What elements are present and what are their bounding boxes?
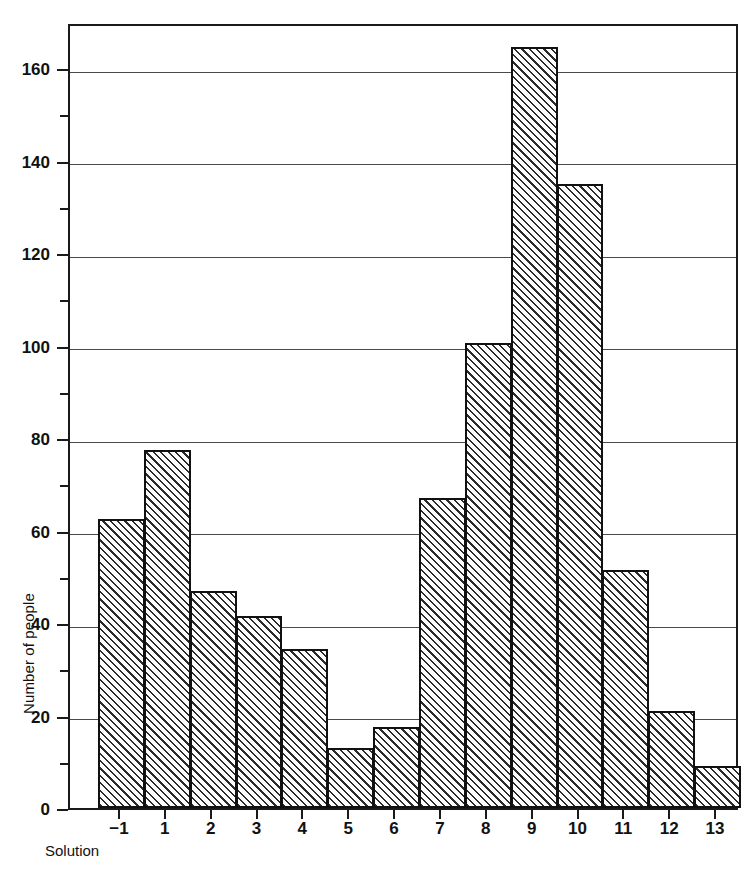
bar [144,450,191,808]
y-axis-tick-major [57,69,68,71]
y-axis-tick-major [57,254,68,256]
y-axis-tick-label: 140 [0,154,50,171]
y-axis-tick-major [57,717,68,719]
bar [236,616,283,808]
bar [511,47,558,808]
x-axis-tick-label: 7 [417,820,463,839]
x-axis-tick-label: −1 [96,820,142,839]
bar [648,711,695,808]
bar [465,343,512,808]
bar [373,727,420,808]
y-axis-tick-major [57,624,68,626]
y-axis-tick-label: 80 [0,431,50,448]
plot-area [68,24,738,810]
y-axis-tick-minor [60,300,68,302]
bar [419,498,466,808]
y-axis-tick-minor [60,485,68,487]
y-axis-tick-minor [60,393,68,395]
x-axis-tick [347,810,349,819]
y-axis-tick-major [57,532,68,534]
x-axis-tick-label: 4 [279,820,325,839]
bar [694,766,741,808]
x-axis-tick-label: 3 [234,820,280,839]
y-axis-tick-major [57,162,68,164]
x-axis-tick [256,810,258,819]
x-axis-tick-label: 11 [600,820,646,839]
x-axis-tick [164,810,166,819]
x-axis-tick-label: 13 [692,820,738,839]
y-axis-tick-minor [60,578,68,580]
x-axis-tick-label: 8 [463,820,509,839]
y-axis-tick-label: 100 [0,339,50,356]
y-axis-tick-minor [60,208,68,210]
x-axis-tick [439,810,441,819]
y-axis-tick-minor [60,670,68,672]
bar [281,649,328,809]
y-axis-tick-label: 60 [0,524,50,541]
bar [557,184,604,808]
bar [327,748,374,808]
x-axis-tick [622,810,624,819]
bar [602,570,649,808]
x-axis-tick-label: 10 [555,820,601,839]
x-axis-tick [485,810,487,819]
x-axis-tick [210,810,212,819]
x-axis-tick [118,810,120,819]
plot-inner [70,26,736,808]
x-axis-tick [714,810,716,819]
x-axis-tick [393,810,395,819]
x-axis-tick-label: 9 [509,820,555,839]
bars-group [70,26,736,808]
x-axis-tick-label: 12 [646,820,692,839]
x-axis-tick [577,810,579,819]
y-axis-tick-label: 0 [0,801,50,818]
bar [98,519,145,808]
bar [190,591,237,808]
x-axis-tick [301,810,303,819]
x-axis-tick-label: 1 [142,820,188,839]
histogram-chart: Number of people 020406080100120140160 −… [0,0,753,877]
x-axis-tick-label: 2 [188,820,234,839]
y-axis-tick-minor [60,115,68,117]
x-axis-tick [668,810,670,819]
x-axis-tick-label: 6 [371,820,417,839]
x-axis-tick-label: 5 [325,820,371,839]
y-axis-tick-label: 20 [0,709,50,726]
x-axis-tick [531,810,533,819]
x-axis-title: Solution [45,842,99,859]
y-axis-tick-label: 160 [0,61,50,78]
y-axis-tick-minor [60,763,68,765]
y-axis-tick-major [57,347,68,349]
y-axis-tick-label: 120 [0,246,50,263]
y-axis-tick-major [57,809,68,811]
y-axis-tick-label: 40 [0,616,50,633]
y-axis-tick-major [57,439,68,441]
